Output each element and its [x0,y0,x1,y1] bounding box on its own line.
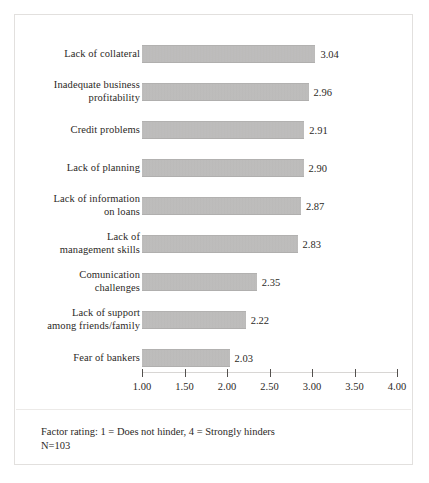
bar-row: Lack of informationon loans2.87 [15,189,414,223]
bar-value-label: 2.96 [309,83,332,101]
bar [142,197,301,215]
footnote-separator [16,409,411,410]
x-axis-tick [227,369,228,377]
category-label-line: Lack of information [54,193,140,206]
x-axis-tick [397,369,398,377]
x-axis-tick-label: 3.00 [303,381,321,392]
bar-value-label: 2.90 [304,159,327,177]
x-axis-tick [270,369,271,377]
bar-value-label: 3.04 [315,45,338,63]
category-label-line: on loans [104,206,140,219]
bar [142,273,257,291]
footnote-sample-size: N=103 [41,439,391,453]
bar-value-label: 2.83 [298,235,321,253]
category-label-line: Comunication [79,269,140,282]
bar-fill [142,83,309,101]
bar-value-label: 2.22 [246,311,269,329]
category-label: Inadequate businessprofitability [22,75,140,109]
bar-fill [142,159,304,177]
bar-fill [142,349,230,367]
category-label: Comunicationchallenges [22,265,140,299]
bar-value-label: 2.87 [301,197,324,215]
x-axis-tick-label: 2.00 [218,381,236,392]
bar-row: Inadequate businessprofitability2.96 [15,75,414,109]
bar-fill [142,235,298,253]
bar-chart: Lack of collateral3.04Inadequate busines… [15,15,414,409]
bar-row: Credit problems2.91 [15,113,414,147]
bar-value-label: 2.03 [230,349,253,367]
bar-fill [142,121,304,139]
bar-row: Comunicationchallenges2.35 [15,265,414,299]
category-label-line: challenges [95,282,140,295]
bar [142,311,246,329]
x-axis-tick [185,369,186,377]
bar-value-label: 2.35 [257,273,280,291]
category-label: Lack of supportamong friends/family [22,303,140,337]
x-axis-tick-label: 1.50 [175,381,193,392]
category-label-line: Lack of collateral [64,48,140,61]
category-label-line: management skills [60,244,140,257]
bar [142,235,298,253]
category-label: Fear of bankers [22,341,140,375]
category-label-line: Lack of [107,231,140,244]
bar [142,159,304,177]
bar-value-label: 2.91 [304,121,327,139]
category-label-line: among friends/family [47,320,140,333]
category-label: Lack of planning [22,151,140,185]
bar-row: Lack of supportamong friends/family2.22 [15,303,414,337]
category-label-line: Fear of bankers [73,352,140,365]
x-axis-tick-label: 3.50 [345,381,363,392]
x-axis-tick [312,369,313,377]
bar-fill [142,197,301,215]
category-label-line: Lack of planning [67,162,140,175]
x-axis-tick-label: 1.00 [133,381,151,392]
bar-fill [142,311,246,329]
category-label: Lack of collateral [22,37,140,71]
category-label: Credit problems [22,113,140,147]
category-label-line: profitability [89,92,140,105]
category-label-line: Inadequate business [54,79,140,92]
x-axis-tick-label: 4.00 [388,381,406,392]
footnote-rating-scale: Factor rating: 1 = Does not hinder, 4 = … [41,425,391,439]
bar-row: Lack ofmanagement skills2.83 [15,227,414,261]
bar [142,121,304,139]
bar [142,349,230,367]
bar-row: Lack of collateral3.04 [15,37,414,71]
chart-frame: Lack of collateral3.04Inadequate busines… [14,14,413,465]
x-axis-tick [355,369,356,377]
x-axis: 1.001.502.002.503.003.504.00 [142,372,397,406]
x-axis-tick-label: 2.50 [260,381,278,392]
category-label: Lack of informationon loans [22,189,140,223]
chart-footnote: Factor rating: 1 = Does not hinder, 4 = … [41,425,391,453]
bar-fill [142,45,315,63]
category-label: Lack ofmanagement skills [22,227,140,261]
bar-fill [142,273,257,291]
x-axis-tick [142,369,143,377]
category-label-line: Lack of support [72,307,140,320]
category-label-line: Credit problems [71,124,140,137]
bar [142,83,309,101]
bar [142,45,315,63]
bar-row: Lack of planning2.90 [15,151,414,185]
